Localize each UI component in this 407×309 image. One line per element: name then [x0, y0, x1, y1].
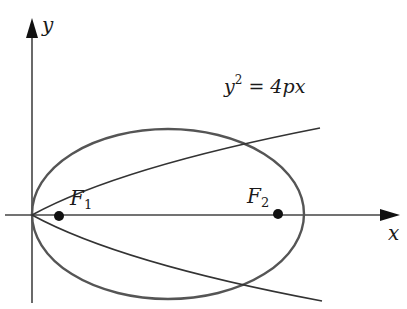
y-axis: [26, 18, 38, 303]
focus-f2-label: F2: [246, 184, 269, 210]
x-axis: [5, 209, 400, 221]
focus-f2-point: [273, 209, 283, 219]
conic-diagram: y x y2 = 4px F1 F2: [0, 0, 407, 309]
parabola-equation-label: y2 = 4px: [223, 73, 306, 97]
x-axis-label: x: [388, 221, 399, 245]
y-axis-label: y: [41, 13, 54, 37]
y-axis-arrow-icon: [26, 18, 38, 38]
x-axis-arrow-icon: [380, 209, 400, 221]
ellipse-curve: [32, 129, 304, 299]
focus-f1-point: [54, 211, 64, 221]
